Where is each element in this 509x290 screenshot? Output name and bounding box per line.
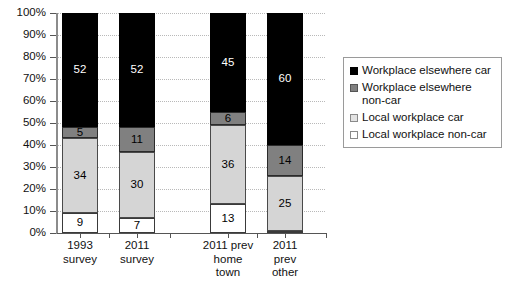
y-axis-label: 100% (0, 7, 46, 19)
bar-segment[interactable]: 25 (267, 176, 303, 231)
x-axis-label-line: 2011 (242, 239, 328, 253)
x-axis-label: 2011prevother (242, 239, 328, 280)
bar-segment-value: 60 (279, 73, 292, 85)
x-axis-tick (228, 233, 229, 238)
stacked-bar[interactable]: 934552 (62, 13, 98, 233)
x-axis-label-line: survey (94, 253, 180, 267)
x-axis-tick (80, 233, 81, 238)
y-axis-label: 10% (0, 205, 46, 217)
y-axis-label: 20% (0, 183, 46, 195)
x-axis-tick (285, 233, 286, 238)
legend-item-workplace-elsewhere-non-car[interactable]: Workplace elsewhere non-car (350, 81, 496, 107)
x-axis-label-line: other (242, 266, 328, 280)
legend-label: Workplace elsewhere non-car (362, 81, 496, 107)
bar-segment-value: 6 (225, 113, 231, 125)
bar-segment-value: 52 (74, 64, 87, 76)
y-axis-label: 0% (0, 227, 46, 239)
bar-segment[interactable]: 52 (62, 13, 98, 127)
y-axis-label: 80% (0, 51, 46, 63)
legend-swatch-white-icon (350, 131, 358, 139)
y-axis-label: 60% (0, 95, 46, 107)
bar-segment[interactable]: 30 (119, 152, 155, 218)
x-axis-tick (109, 233, 110, 238)
bar-segment[interactable]: 52 (119, 13, 155, 127)
stacked-bar[interactable]: 7301152 (119, 13, 155, 233)
x-axis-tick (170, 233, 171, 238)
y-axis-label: 30% (0, 161, 46, 173)
legend-item-local-workplace-car[interactable]: Local workplace car (350, 111, 496, 124)
y-axis-label: 40% (0, 139, 46, 151)
bar-segment-value: 25 (279, 198, 292, 210)
y-axis-label: 70% (0, 73, 46, 85)
legend-label: Workplace elsewhere car (362, 64, 491, 77)
bar-segment-value: 36 (222, 159, 235, 171)
x-axis-label-line: 2011 (94, 239, 180, 253)
bar-segment-value: 14 (279, 155, 292, 167)
bar-segment[interactable]: 7 (119, 218, 155, 233)
bar-segment-value: 5 (77, 127, 83, 139)
legend-item-local-workplace-non-car[interactable]: Local workplace non-car (350, 128, 496, 141)
chart-legend: Workplace elsewhere car Workplace elsewh… (343, 57, 502, 148)
bar-segment-value: 45 (222, 57, 235, 69)
x-axis-label-line: prev (242, 253, 328, 267)
x-axis-label: 2011survey (94, 239, 180, 266)
legend-swatch-dark-gray-icon (350, 84, 358, 92)
x-axis-tick (137, 233, 138, 238)
y-axis-label: 50% (0, 117, 46, 129)
bar-segment[interactable]: 13 (210, 204, 246, 233)
legend-item-workplace-elsewhere-car[interactable]: Workplace elsewhere car (350, 64, 496, 77)
stacked-bar[interactable]: 1336645 (210, 13, 246, 233)
bar-segment[interactable]: 9 (62, 213, 98, 233)
stacked-bar[interactable]: 251460 (267, 13, 303, 233)
bar-segment[interactable]: 36 (210, 125, 246, 204)
legend-swatch-light-gray-icon (350, 114, 358, 122)
bar-segment[interactable]: 11 (119, 127, 155, 151)
chart-figure: 0%10%20%30%40%50%60%70%80%90%100% 934552… (0, 0, 509, 290)
bar-segment-value: 9 (77, 217, 83, 229)
bar-segment-value: 13 (222, 213, 235, 225)
y-axis-line (56, 13, 58, 234)
bar-segment-value: 7 (134, 220, 140, 232)
bar-segment[interactable]: 14 (267, 145, 303, 176)
y-axis-label: 90% (0, 29, 46, 41)
bar-segment-value: 52 (131, 64, 144, 76)
bar-segment[interactable]: 34 (62, 138, 98, 213)
bar-segment-value: 34 (74, 170, 87, 182)
bar-segment-value: 30 (131, 179, 144, 191)
bar-segment[interactable]: 6 (210, 112, 246, 125)
bar-segment[interactable]: 60 (267, 13, 303, 145)
legend-label: Local workplace car (362, 111, 464, 124)
x-axis-tick (257, 233, 258, 238)
bar-segment-value: 11 (131, 134, 143, 146)
legend-label: Local workplace non-car (362, 128, 487, 141)
bar-segment[interactable]: 5 (62, 127, 98, 138)
legend-swatch-black-icon (350, 67, 358, 75)
bar-segment[interactable]: 45 (210, 13, 246, 112)
x-axis-tick (326, 233, 327, 238)
